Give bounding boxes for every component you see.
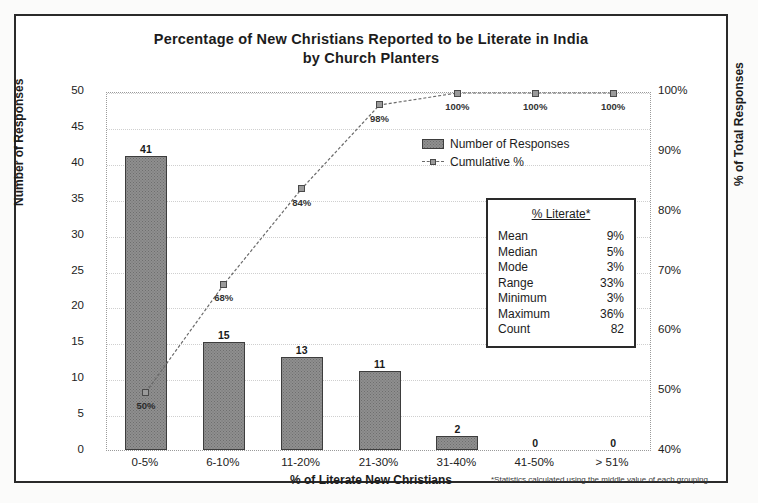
statistics-key: Maximum bbox=[498, 307, 550, 323]
cumulative-marker bbox=[532, 90, 539, 97]
chart-title-line-1: Percentage of New Christians Reported to… bbox=[16, 30, 726, 49]
chart-legend: Number of Responses Cumulative % bbox=[422, 135, 569, 171]
cumulative-value-label: 98% bbox=[356, 113, 404, 124]
statistics-value: 9% bbox=[607, 229, 624, 245]
legend-item-cumulative-percent: Cumulative % bbox=[422, 153, 569, 171]
statistics-value: 33% bbox=[600, 276, 624, 292]
x-axis-tick-label: 31-40% bbox=[417, 456, 495, 468]
x-axis-tick-label: 11-20% bbox=[262, 456, 340, 468]
statistics-box: % Literate* Mean9%Median5%Mode3%Range33%… bbox=[486, 198, 636, 348]
x-axis-tick-label: 41-50% bbox=[495, 456, 573, 468]
secondary-y-axis-tick-label: 60% bbox=[658, 323, 704, 335]
secondary-y-axis-tick-label: 90% bbox=[658, 144, 704, 156]
statistics-value: 82 bbox=[611, 322, 624, 338]
cumulative-marker bbox=[376, 101, 383, 108]
secondary-y-axis-tick-label: 70% bbox=[658, 264, 704, 276]
line-marker-icon bbox=[422, 157, 444, 167]
statistics-key: Mean bbox=[498, 229, 528, 245]
statistics-row: Minimum3% bbox=[498, 291, 624, 307]
statistics-key: Median bbox=[498, 245, 537, 261]
y-axis-tick-label: 50 bbox=[44, 84, 84, 96]
cumulative-marker bbox=[298, 185, 305, 192]
cumulative-value-label: 100% bbox=[433, 101, 481, 112]
statistics-key: Range bbox=[498, 276, 533, 292]
statistics-row: Mean9% bbox=[498, 229, 624, 245]
chart-frame: Percentage of New Christians Reported to… bbox=[14, 14, 728, 483]
statistics-value: 36% bbox=[600, 307, 624, 323]
cumulative-marker bbox=[454, 90, 461, 97]
statistics-row: Maximum36% bbox=[498, 307, 624, 323]
statistics-value: 3% bbox=[607, 291, 624, 307]
statistics-rows: Mean9%Median5%Mode3%Range33%Minimum3%Max… bbox=[498, 229, 624, 338]
x-axis-tick-label: 0-5% bbox=[106, 456, 184, 468]
cumulative-marker bbox=[220, 281, 227, 288]
legend-item-number-of-responses: Number of Responses bbox=[422, 135, 569, 153]
secondary-y-axis-tick-label: 50% bbox=[658, 383, 704, 395]
secondary-y-axis-tick-label: 40% bbox=[658, 443, 704, 455]
statistics-key: Mode bbox=[498, 260, 528, 276]
statistics-value: 5% bbox=[607, 245, 624, 261]
x-axis-tick-label: 6-10% bbox=[184, 456, 262, 468]
statistics-row: Median5% bbox=[498, 245, 624, 261]
y-axis-tick-label: 30 bbox=[44, 228, 84, 240]
y-axis-tick-label: 20 bbox=[44, 299, 84, 311]
chart-title: Percentage of New Christians Reported to… bbox=[16, 30, 726, 68]
chart-title-line-2: by Church Planters bbox=[16, 49, 726, 68]
statistics-row: Range33% bbox=[498, 276, 624, 292]
statistics-key: Minimum bbox=[498, 291, 547, 307]
chart-footnote: *Statistics calculated using the middle … bbox=[491, 475, 708, 484]
cumulative-value-label: 84% bbox=[278, 197, 326, 208]
y-axis-tick-label: 35 bbox=[44, 192, 84, 204]
x-axis-tick-label: 21-30% bbox=[340, 456, 418, 468]
secondary-y-axis-title: % of Total Responses bbox=[732, 62, 746, 186]
secondary-y-axis-tick-label: 100% bbox=[658, 84, 704, 96]
chart-page: Percentage of New Christians Reported to… bbox=[0, 0, 758, 503]
statistics-box-title: % Literate* bbox=[498, 207, 624, 221]
cumulative-value-label: 68% bbox=[200, 292, 248, 303]
cumulative-marker bbox=[610, 90, 617, 97]
legend-label: Number of Responses bbox=[450, 135, 569, 153]
statistics-row: Mode3% bbox=[498, 260, 624, 276]
statistics-value: 3% bbox=[607, 260, 624, 276]
bar-swatch-icon bbox=[422, 139, 444, 149]
cumulative-marker bbox=[142, 389, 149, 396]
cumulative-value-label: 100% bbox=[589, 101, 637, 112]
y-axis-tick-label: 10 bbox=[44, 371, 84, 383]
y-axis-tick-label: 15 bbox=[44, 335, 84, 347]
y-axis-tick-label: 45 bbox=[44, 120, 84, 132]
x-axis-tick-label: > 51% bbox=[573, 456, 651, 468]
cumulative-value-label: 50% bbox=[122, 400, 170, 411]
statistics-row: Count82 bbox=[498, 322, 624, 338]
secondary-y-axis-tick-label: 80% bbox=[658, 204, 704, 216]
cumulative-value-label: 100% bbox=[511, 101, 559, 112]
y-axis-tick-label: 25 bbox=[44, 264, 84, 276]
y-axis-tick-label: 40 bbox=[44, 156, 84, 168]
y-axis-tick-label: 5 bbox=[44, 407, 84, 419]
statistics-key: Count bbox=[498, 322, 530, 338]
y-axis-title: Number of Responses bbox=[12, 79, 26, 206]
y-axis-tick-label: 0 bbox=[44, 443, 84, 455]
legend-label: Cumulative % bbox=[450, 153, 524, 171]
